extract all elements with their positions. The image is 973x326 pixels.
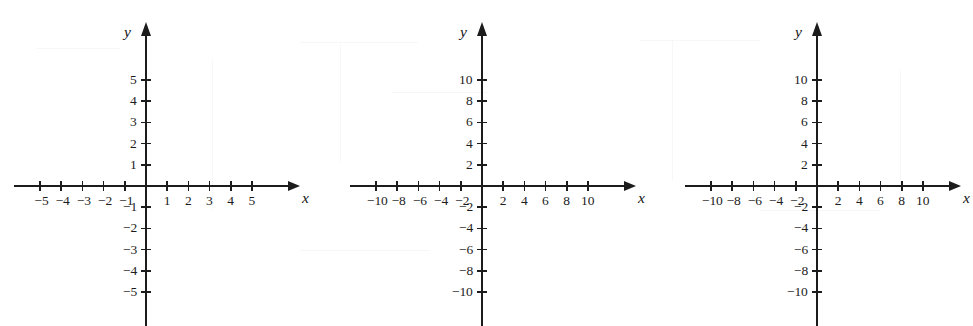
y-axis-arrowhead-3: [812, 22, 822, 36]
y-tick-label-3-1: 8: [801, 94, 808, 108]
y-tick-label-3-0: 10: [794, 73, 808, 87]
x-tick-label-3-0: −10: [702, 194, 723, 208]
worksheet-canvas: −5−4−3−2−112345 54321−1−2−3−4−5 y x −10−…: [0, 0, 973, 326]
x-axis-label-3: x: [963, 190, 970, 206]
y-tick-label-3-6: −4: [794, 221, 808, 235]
coordinate-grid-3: −10−8−6−4−2246810 108642−2−4−6−8−10 y x: [0, 0, 973, 326]
x-axis-arrowhead-3: [949, 181, 961, 191]
y-tick-label-3-2: 6: [801, 115, 808, 129]
x-tick-label-3-9: 10: [916, 194, 930, 208]
y-axis-label-3: y: [795, 24, 802, 40]
x-tick-label-3-3: −4: [769, 194, 783, 208]
x-tick-label-3-7: 6: [877, 194, 884, 208]
y-tick-label-3-7: −6: [794, 243, 808, 257]
y-tick-label-3-3: 4: [801, 137, 808, 151]
y-tick-label-3-8: −8: [794, 264, 808, 278]
y-tick-label-3-4: 2: [801, 158, 808, 172]
axes-svg-3: [0, 0, 973, 326]
x-tick-label-3-8: 8: [898, 194, 905, 208]
x-tick-label-3-1: −8: [727, 194, 741, 208]
x-tick-label-3-5: 2: [835, 194, 842, 208]
y-tick-label-3-9: −10: [787, 285, 808, 299]
x-tick-label-3-6: 4: [856, 194, 863, 208]
y-tick-label-3-5: −2: [794, 200, 808, 214]
x-tick-label-3-2: −6: [748, 194, 762, 208]
